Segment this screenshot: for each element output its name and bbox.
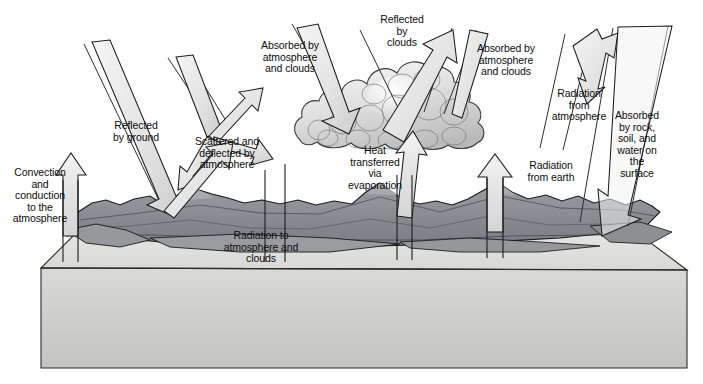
label-radiation-from-earth: Radiation from earth <box>514 160 588 183</box>
label-reflected-by-clouds: Reflected by clouds <box>371 14 433 49</box>
label-reflected-by-ground: Reflected by ground <box>101 120 171 143</box>
label-absorbed-atmosphere-right: Absorbed by atmosphere and clouds <box>465 43 547 78</box>
earth-energy-budget-illustration <box>0 0 703 384</box>
diagram-canvas: Convection and conduction to the atmosph… <box>0 0 703 384</box>
label-radiation-to-atmosphere: Radiation to atmosphere and clouds <box>206 230 316 265</box>
label-convection-conduction: Convection and conduction to the atmosph… <box>2 167 78 225</box>
label-scattered-deflected: Scattered and deflected by atmosphere <box>183 136 271 171</box>
ground-front-face <box>41 268 687 368</box>
label-heat-transferred-evaporation: Heat transferred via evaporation <box>337 145 413 191</box>
arrow-incoming-solar-scatter <box>176 55 222 137</box>
label-absorbed-atmosphere-left: Absorbed by atmosphere and clouds <box>249 40 331 75</box>
label-absorbed-by-rock: Absorbed by rock, soil, and water on the… <box>606 110 668 180</box>
